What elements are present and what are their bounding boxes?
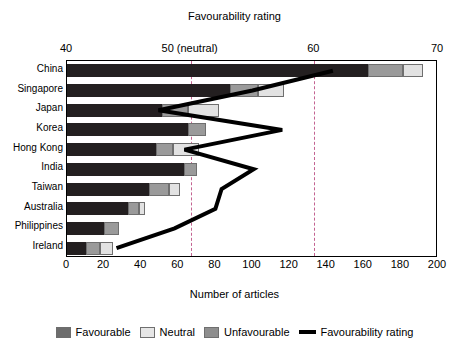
- bottom-axis-tick-160: 160: [343, 258, 383, 270]
- bottom-axis-tick-0: 0: [46, 258, 86, 270]
- legend-item-unfavourable[interactable]: Unfavourable: [204, 326, 289, 338]
- legend-swatch-neu-icon: [140, 327, 155, 338]
- legend-item-favourable[interactable]: Favourable: [56, 326, 131, 338]
- bottom-axis-tick-200: 200: [417, 258, 457, 270]
- favourability-rating-line: [67, 61, 438, 258]
- bottom-axis-tick-20: 20: [83, 258, 123, 270]
- bottom-axis-tick-40: 40: [120, 258, 160, 270]
- category-label-philippines: Philippines: [1, 220, 63, 231]
- plot-area: [66, 60, 437, 257]
- category-label-australia: Australia: [1, 201, 63, 212]
- bottom-axis-tick-180: 180: [380, 258, 420, 270]
- category-label-singapore: Singapore: [1, 83, 63, 94]
- legend-swatch-fav-icon: [56, 327, 71, 338]
- top-axis-tick-50: 50 (neutral): [145, 42, 235, 54]
- bottom-axis-tick-100: 100: [232, 258, 272, 270]
- category-label-japan: Japan: [1, 102, 63, 113]
- category-label-taiwan: Taiwan: [1, 181, 63, 192]
- top-axis-tick-70: 70: [392, 42, 469, 54]
- bottom-axis-title: Number of articles: [0, 288, 469, 300]
- category-label-ireland: Ireland: [1, 240, 63, 251]
- bottom-axis-tick-80: 80: [194, 258, 234, 270]
- bottom-axis-tick-140: 140: [306, 258, 346, 270]
- category-label-hong-kong: Hong Kong: [1, 142, 63, 153]
- legend-item-neutral[interactable]: Neutral: [140, 326, 195, 338]
- legend-item-favourability-rating[interactable]: Favourability rating: [299, 326, 414, 338]
- legend-label: Favourability rating: [321, 326, 414, 338]
- legend-label: Unfavourable: [224, 326, 289, 338]
- legend-swatch-line-icon: [299, 330, 316, 334]
- legend-swatch-unf-icon: [204, 327, 219, 338]
- legend-label: Neutral: [160, 326, 195, 338]
- top-axis-title: Favourability rating: [0, 10, 469, 22]
- category-label-korea: Korea: [1, 122, 63, 133]
- chart-container: Favourability rating 4050 (neutral)6070 …: [0, 0, 469, 360]
- top-axis-tick-60: 60: [268, 42, 358, 54]
- rating-polyline: [117, 71, 333, 248]
- bottom-axis-tick-120: 120: [269, 258, 309, 270]
- chart-legend: FavourableNeutralUnfavourableFavourabili…: [0, 326, 469, 338]
- legend-label: Favourable: [76, 326, 131, 338]
- category-label-india: India: [1, 161, 63, 172]
- bottom-axis-tick-60: 60: [157, 258, 197, 270]
- category-label-china: China: [1, 63, 63, 74]
- top-axis-tick-40: 40: [21, 42, 111, 54]
